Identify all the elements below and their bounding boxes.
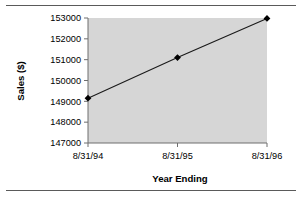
- y-axis-ticks: [84, 18, 88, 143]
- plot-background: [88, 18, 267, 143]
- x-axis-title: Year Ending: [152, 173, 208, 184]
- x-axis-ticks: [88, 143, 267, 147]
- y-axis-tick-labels: 1470001480001490001500001510001520001530…: [50, 13, 81, 148]
- x-axis-tick-label: 8/31/96: [252, 151, 283, 161]
- line-chart: 1470001480001490001500001510001520001530…: [0, 0, 302, 198]
- chart-figure: 1470001480001490001500001510001520001530…: [0, 0, 302, 198]
- x-axis-tick-label: 8/31/94: [73, 151, 104, 161]
- y-axis-tick-label: 153000: [50, 13, 81, 23]
- y-axis-tick-label: 150000: [50, 76, 81, 86]
- y-axis-tick-label: 151000: [50, 55, 81, 65]
- y-axis-tick-label: 147000: [50, 138, 81, 148]
- y-axis-title: Sales ($): [15, 61, 26, 100]
- y-axis-tick-label: 149000: [50, 97, 81, 107]
- y-axis-tick-label: 152000: [50, 34, 81, 44]
- x-axis-tick-labels: 8/31/948/31/958/31/96: [73, 151, 283, 161]
- x-axis-tick-label: 8/31/95: [162, 151, 193, 161]
- y-axis-tick-label: 148000: [50, 117, 81, 127]
